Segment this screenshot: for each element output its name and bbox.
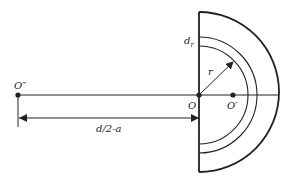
arrowhead-left-icon — [19, 114, 27, 122]
label-distance: d/2-a — [96, 123, 122, 134]
label-d-r: dr — [184, 35, 194, 49]
point-o-double-prime — [15, 92, 20, 97]
point-o-prime — [230, 92, 235, 97]
label-r: r — [208, 66, 214, 77]
label-o-double-prime: O″ — [14, 80, 26, 91]
label-d-r-sub: r — [190, 41, 194, 49]
radius-arrow — [199, 62, 233, 95]
geometry-diagram: O″ O O′ r dr d/2-a — [0, 0, 290, 183]
outer-semicircle — [199, 12, 279, 172]
point-o — [196, 92, 201, 97]
label-o: O — [188, 100, 196, 111]
label-o-prime: O′ — [227, 100, 238, 111]
